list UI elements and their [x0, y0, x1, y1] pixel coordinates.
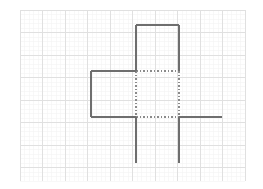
figure-canvas: [0, 0, 263, 189]
canvas-background: [0, 0, 263, 189]
figure-svg: [0, 0, 263, 189]
